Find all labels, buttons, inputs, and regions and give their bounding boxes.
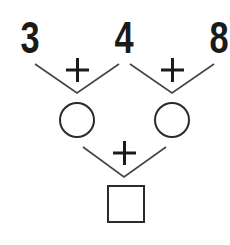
plus-icon-left-top <box>66 58 89 82</box>
answer-circle-right[interactable] <box>155 103 189 137</box>
plus-icon-bottom <box>113 141 136 165</box>
answer-square-result[interactable] <box>108 186 144 222</box>
diagram-graphics <box>0 0 230 245</box>
plus-icon-right-top <box>161 58 184 82</box>
addition-pyramid-diagram: 3 4 8 <box>0 0 230 245</box>
answer-circle-left[interactable] <box>60 103 94 137</box>
